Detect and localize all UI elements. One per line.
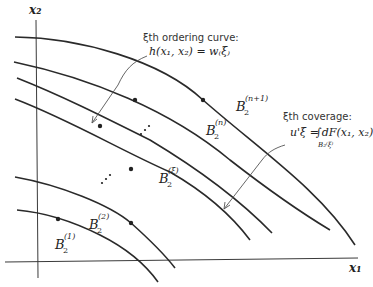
coverage-formula-lhs: u'ξ = (290, 127, 319, 138)
x-axis (5, 258, 358, 262)
coverage-formula-rhs: ∫dF(x₁, x₂) (316, 127, 373, 138)
ellipsis-lower (101, 174, 111, 184)
ordering-curve-formula: h(x₁, x₂) = w₍ξ₎ (149, 46, 230, 57)
curve-point (133, 98, 137, 102)
curve-point (56, 217, 60, 221)
y-axis-label: x₂ (29, 4, 41, 16)
curve-third (17, 78, 272, 233)
curve-point (129, 167, 133, 171)
coverage-title: ξth coverage: (283, 112, 352, 122)
region-sup: (ξ) (168, 166, 179, 175)
region-label-b2-2: B 2 (2) (89, 217, 99, 232)
ellipsis-upper (140, 125, 150, 135)
region-sup: (n+1) (245, 94, 268, 103)
coverage-integral-domain: B₂⁽ξ⁾ (318, 142, 333, 149)
x-axis-label: x₁ (349, 262, 361, 274)
region-sub: 2 (167, 180, 172, 189)
region-label-b2-1: B 2 (1) (55, 237, 65, 252)
region-label-b2-xi: B 2 (ξ) (159, 171, 169, 186)
region-sub: 2 (214, 132, 219, 141)
region-sup: (1) (64, 232, 75, 241)
curve-point (129, 221, 133, 225)
region-sup: (2) (98, 212, 109, 221)
ordering-curve-leader (92, 56, 147, 123)
coverage-leader (224, 145, 285, 209)
region-label-b2-n-plus-1: B 2 (n+1) (236, 99, 246, 114)
y-axis (36, 20, 38, 278)
region-sub: 2 (244, 108, 249, 117)
region-label-b2-n: B 2 (n) (206, 123, 216, 138)
ordering-curve-title: ξth ordering curve: (143, 33, 239, 43)
region-sub: 2 (97, 226, 102, 235)
region-sup: (n) (215, 118, 226, 127)
region-sub: 2 (63, 246, 68, 255)
curve-point (98, 124, 102, 128)
curve-point (201, 98, 205, 102)
